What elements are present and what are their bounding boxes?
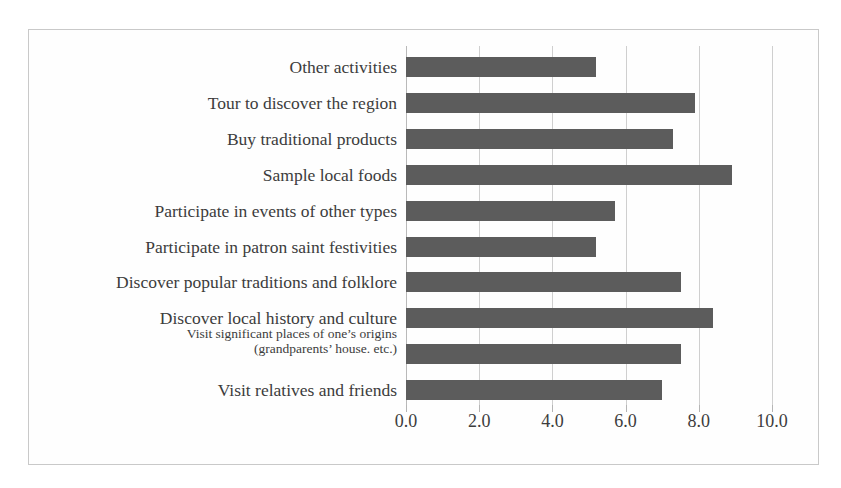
bar[interactable]: [406, 344, 681, 364]
category-label: Tour to discover the region: [208, 94, 397, 112]
bar[interactable]: [406, 93, 695, 113]
bar[interactable]: [406, 272, 681, 292]
value-axis-tick-label: 0.0: [395, 411, 418, 432]
category-label: Visit relatives and friends: [218, 381, 397, 399]
value-axis-tick-label: 8.0: [688, 411, 711, 432]
category-label: Participate in events of other types: [155, 202, 398, 220]
category-label: Discover local history and culture: [160, 309, 397, 327]
category-label: Discover popular traditions and folklore: [116, 273, 397, 291]
bar[interactable]: [406, 201, 615, 221]
gridline-8-0: [699, 46, 700, 405]
bar[interactable]: [406, 165, 732, 185]
value-axis-tick-label: 10.0: [756, 411, 788, 432]
bar[interactable]: [406, 308, 713, 328]
bar[interactable]: [406, 380, 662, 400]
category-label: Other activities: [290, 58, 397, 76]
bar[interactable]: [406, 57, 596, 77]
value-axis-tick-label: 4.0: [541, 411, 564, 432]
category-axis-labels: Other activitiesTour to discover the reg…: [29, 46, 403, 405]
category-label: Sample local foods: [263, 166, 397, 184]
category-label: Participate in patron saint festivities: [145, 238, 397, 256]
gridline-10-0: [772, 46, 773, 405]
category-label-line: Visit significant places of one’s origin…: [97, 326, 397, 341]
figure-frame: Other activitiesTour to discover the reg…: [28, 29, 819, 465]
bar[interactable]: [406, 129, 673, 149]
bar-chart: Other activitiesTour to discover the reg…: [29, 30, 820, 466]
category-label: Visit significant places of one’s origin…: [97, 326, 397, 356]
category-label: Buy traditional products: [227, 130, 397, 148]
value-axis-tick-label: 2.0: [468, 411, 491, 432]
plot-area: [406, 46, 774, 405]
category-label-line: (grandparents’ house. etc.): [97, 341, 397, 356]
value-axis-tick-label: 6.0: [614, 411, 637, 432]
bar[interactable]: [406, 237, 596, 257]
value-axis-tick-labels: 0.02.04.06.08.010.0: [406, 411, 774, 439]
